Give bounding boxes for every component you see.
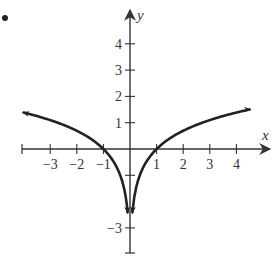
y-axis-label: y bbox=[135, 7, 144, 23]
x-tick-label: −1 bbox=[96, 157, 111, 172]
x-tick-label: 3 bbox=[206, 157, 213, 172]
y-tick-label: 1 bbox=[115, 116, 122, 131]
bullet-marker bbox=[2, 15, 8, 21]
x-axis-label: x bbox=[261, 127, 269, 143]
x-tick-label: −3 bbox=[43, 157, 58, 172]
graph-figure: xy−3−2−112344321−3 bbox=[0, 0, 279, 259]
tick-labels: xy−3−2−112344321−3 bbox=[43, 7, 269, 236]
axis-ticks bbox=[50, 44, 236, 228]
y-tick-label: −3 bbox=[107, 221, 122, 236]
axes bbox=[22, 10, 270, 253]
x-tick-label: 4 bbox=[233, 157, 240, 172]
x-tick-label: 1 bbox=[153, 157, 160, 172]
y-tick-label: 3 bbox=[115, 63, 122, 78]
x-tick-label: −2 bbox=[69, 157, 84, 172]
plot-area: xy−3−2−112344321−3 bbox=[0, 0, 279, 259]
x-tick-label: 2 bbox=[180, 157, 187, 172]
y-tick-label: 4 bbox=[115, 37, 122, 52]
y-tick-label: 2 bbox=[115, 89, 122, 104]
